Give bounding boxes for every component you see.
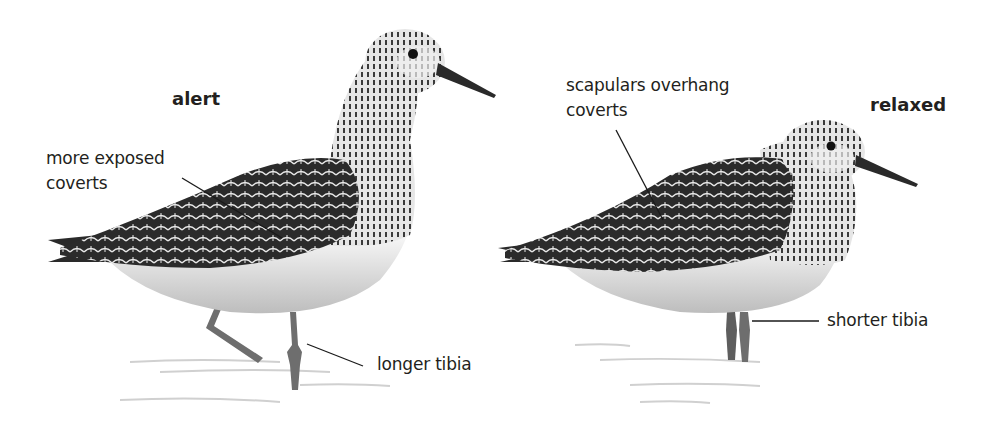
- annotation-scapulars-overhang-coverts: scapulars overhang coverts: [566, 73, 729, 123]
- beak: [436, 63, 496, 98]
- annotation-more-exposed-coverts: more exposed coverts: [46, 146, 165, 196]
- annotation-line: coverts: [46, 171, 165, 196]
- relaxed-bird: [498, 120, 918, 403]
- eye: [408, 49, 418, 59]
- scapulars: [505, 157, 793, 272]
- illustration-canvas: [0, 0, 987, 428]
- figure: alert more exposed coverts longer tibia …: [0, 0, 987, 428]
- beak: [855, 155, 918, 187]
- eye: [827, 142, 836, 151]
- legs-tibia: [726, 312, 737, 360]
- alert-bird: [48, 29, 496, 402]
- annotation-line: coverts: [566, 98, 729, 123]
- front-leg-tibia: [287, 312, 302, 390]
- annotation-longer-tibia: longer tibia: [377, 352, 471, 377]
- annotation-line: scapulars overhang: [566, 73, 729, 98]
- annotation-line: more exposed: [46, 146, 165, 171]
- panel-title-relaxed: relaxed: [870, 94, 946, 115]
- panel-title-alert: alert: [172, 88, 220, 109]
- leader-line-longer-tibia: [307, 344, 363, 366]
- water-reflection: [120, 360, 390, 402]
- annotation-shorter-tibia: shorter tibia: [827, 308, 928, 333]
